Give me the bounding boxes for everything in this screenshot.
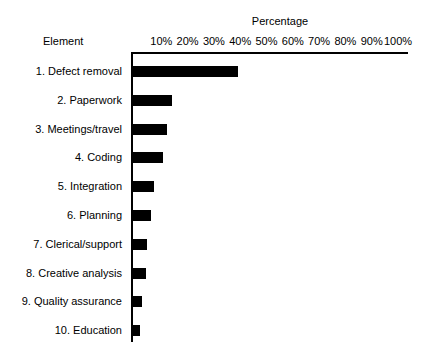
bar-label-1: 1. Defect removal (0, 65, 122, 78)
bar-row: 6. Planning (0, 210, 426, 221)
bar-label-5: 5. Integration (0, 180, 122, 193)
bar-label-9: 9. Quality assurance (0, 295, 122, 308)
bar-row: 1. Defect removal (0, 66, 426, 77)
bar-label-6: 6. Planning (0, 209, 122, 222)
bar-row: 5. Integration (0, 181, 426, 192)
bar-1 (133, 66, 238, 77)
bar-row: 3. Meetings/travel (0, 124, 426, 135)
bar-label-7: 7. Clerical/support (0, 238, 122, 251)
bar-4 (133, 152, 163, 163)
bar-5 (133, 181, 154, 192)
bar-rows: 1. Defect removal2. Paperwork3. Meetings… (0, 0, 426, 357)
bar-row: 10. Education (0, 325, 426, 336)
bar-6 (133, 210, 151, 221)
bar-row: 9. Quality assurance (0, 296, 426, 307)
bar-row: 7. Clerical/support (0, 239, 426, 250)
bar-9 (133, 296, 142, 307)
bar-7 (133, 239, 147, 250)
bar-3 (133, 124, 167, 135)
bar-row: 2. Paperwork (0, 95, 426, 106)
bar-label-4: 4. Coding (0, 151, 122, 164)
bar-label-3: 3. Meetings/travel (0, 123, 122, 136)
bar-8 (133, 268, 146, 279)
bar-label-10: 10. Education (0, 324, 122, 337)
bar-chart: Percentage Element 10%20%30%40%50%60%70%… (0, 0, 426, 357)
bar-label-8: 8. Creative analysis (0, 267, 122, 280)
bar-2 (133, 95, 172, 106)
bar-label-2: 2. Paperwork (0, 94, 122, 107)
bar-row: 8. Creative analysis (0, 268, 426, 279)
bar-10 (133, 325, 140, 336)
bar-row: 4. Coding (0, 152, 426, 163)
